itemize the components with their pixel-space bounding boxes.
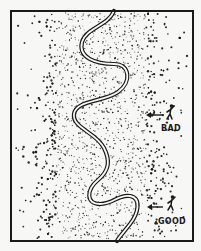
good-label: GOOD [158,217,186,226]
river-stipple-diagram: BAD GOOD [0,0,201,251]
white-gap-line [72,114,140,118]
bad-label: BAD [161,124,181,133]
